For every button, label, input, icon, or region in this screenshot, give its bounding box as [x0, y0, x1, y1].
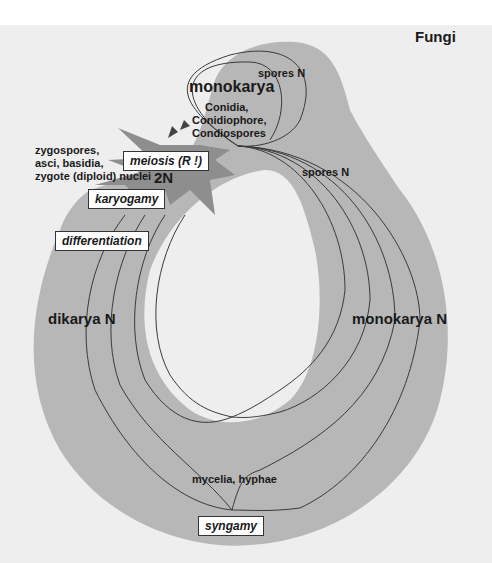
label-mycelia-hyphae: mycelia, hyphae	[192, 473, 277, 486]
label-zygote: zygote (diploid) nuclei	[35, 170, 151, 183]
differentiation-box: differentiation	[55, 231, 149, 251]
karyogamy-box: karyogamy	[88, 189, 165, 209]
syngamy-box: syngamy	[198, 516, 264, 536]
diagram-title: Fungi	[415, 28, 456, 45]
label-condiospores: Condiospores	[192, 127, 266, 140]
label-zygospores: zygospores,	[35, 144, 99, 157]
label-monokarya: monokarya	[189, 78, 274, 96]
meiosis-box: meiosis (R !)	[123, 151, 209, 171]
label-conidia: Conidia,	[205, 101, 248, 114]
label-conidiophore: Conidiophore,	[192, 114, 267, 127]
label-2n: 2N	[154, 169, 173, 186]
label-spores-n-right: spores N	[302, 166, 349, 179]
label-monokarya-n: monokarya N	[352, 310, 447, 327]
label-asci-basidia: asci, basidia,	[35, 157, 103, 170]
label-dikarya-n: dikarya N	[48, 310, 116, 327]
